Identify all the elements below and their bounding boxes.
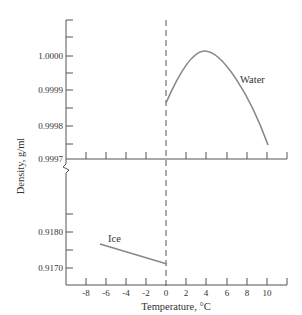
y-tick-label: 1.0000 [38,51,63,61]
svg-text:2: 2 [184,288,189,298]
y-tick-label: 0.9999 [38,85,63,95]
y-tick-label: 0.9170 [38,263,63,273]
svg-text:0: 0 [164,288,169,298]
x-ticks [86,278,287,285]
svg-text:8: 8 [245,288,250,298]
y-tick-label: 0.9997 [38,154,63,164]
x-axis-label: Temperature, °C [141,301,210,312]
svg-text:6: 6 [225,288,230,298]
y-tick-label: 0.9998 [38,121,63,131]
y-ticks-lower [66,214,73,268]
svg-text:4: 4 [204,288,209,298]
svg-text:-2: -2 [142,288,150,298]
svg-text:-8: -8 [82,288,90,298]
y-tick-label: 0.9180 [38,227,63,237]
x-tick-labels: -8 -6 -4 -2 0 2 4 6 8 10 [82,288,272,298]
ice-label: Ice [108,233,121,244]
density-chart: 1.0000 0.9999 0.9998 0.9997 0.9180 0.917… [0,0,302,315]
y-axis-label: Density, g/ml [15,138,26,195]
ice-line [100,244,167,264]
svg-text:-6: -6 [102,288,110,298]
x-ticks-upper [86,152,287,159]
water-label: Water [240,74,265,85]
svg-text:10: 10 [263,288,273,298]
water-curve [166,51,268,145]
axis-break-icon [63,164,69,173]
svg-text:-4: -4 [122,288,130,298]
y-ticks-upper [66,37,73,144]
